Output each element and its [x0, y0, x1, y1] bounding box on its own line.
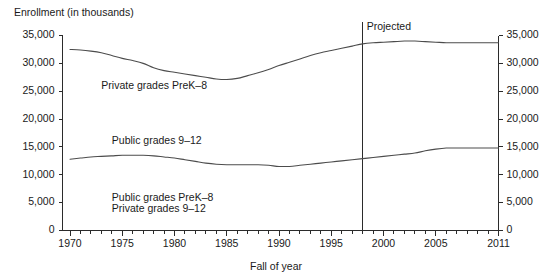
x-tick-label: 1975 [111, 237, 135, 249]
x-tick-label: 1980 [163, 237, 187, 249]
series-inline-label-2: Public grades 9–12 [112, 134, 202, 146]
x-tick-label: 1970 [58, 237, 82, 249]
y-tick-label-right: 25,000 [507, 84, 539, 96]
x-axis-title: Fall of year [250, 260, 302, 272]
y-tick-label-right: 30,000 [507, 56, 539, 68]
enrollment-line-chart: Enrollment (in thousands) 05,00010,00015… [0, 0, 553, 276]
y-tick-label-left: 5,000 [28, 195, 54, 207]
y-tick-label-left: 20,000 [22, 112, 54, 124]
x-tick-label: 2011 [487, 237, 510, 249]
inline-series-labels: Private grades PreK–8Public grades 9–12P… [101, 79, 213, 214]
y-tick-label-right: 10,000 [507, 168, 539, 180]
y-tick-label-left: 10,000 [22, 168, 54, 180]
bottom-inline-label-2: Private grades 9–12 [112, 202, 206, 214]
y-tick-label-right: 15,000 [507, 140, 539, 152]
x-tick-label: 1990 [267, 237, 291, 249]
series-lines [70, 41, 499, 167]
y-axis-right: 05,00010,00015,00020,00025,00030,00035,0… [499, 28, 539, 235]
y-tick-label-right: 5,000 [507, 195, 533, 207]
chart-title-group: Enrollment (in thousands) [14, 6, 134, 18]
x-tick-label: 1995 [320, 237, 344, 249]
y-tick-label-left: 30,000 [22, 56, 54, 68]
x-tick-label: 1985 [215, 237, 239, 249]
y-axis-left: 05,00010,00015,00020,00025,00030,00035,0… [22, 28, 62, 235]
y-tick-label-left: 35,000 [22, 28, 54, 40]
series-line-2 [70, 148, 499, 167]
x-axis: 197019751980198519901995200020052011 [58, 231, 510, 249]
chart-title: Enrollment (in thousands) [14, 6, 134, 18]
y-tick-label-left: 15,000 [22, 140, 54, 152]
y-tick-label-right: 0 [507, 223, 513, 235]
x-tick-label: 2005 [424, 237, 448, 249]
x-tick-label: 2000 [372, 237, 396, 249]
series-inline-label-1: Private grades PreK–8 [101, 79, 207, 91]
y-tick-label-right: 35,000 [507, 28, 539, 40]
y-tick-label-left: 0 [49, 223, 55, 235]
projected-annotation: Projected [367, 20, 412, 32]
annotations: Projected [367, 20, 412, 32]
y-tick-label-left: 25,000 [22, 84, 54, 96]
y-tick-label-right: 20,000 [507, 112, 539, 124]
chart-canvas: Enrollment (in thousands) 05,00010,00015… [0, 0, 553, 276]
series-line-1 [70, 41, 499, 80]
